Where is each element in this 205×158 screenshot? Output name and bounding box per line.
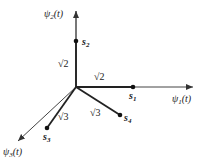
- psi2-label: ψ2(t): [44, 8, 64, 21]
- s3-point: [45, 126, 50, 131]
- s4-magnitude: √3: [90, 107, 101, 118]
- s2-point: [74, 39, 79, 44]
- psi1-label: ψ1(t): [172, 93, 192, 106]
- s4-label: s4: [123, 112, 132, 125]
- s3-magnitude: √3: [58, 111, 69, 122]
- signal-space-diagram: ψ2(t) ψ1(t) ψ3(t) s2 s1 s3 s4 √2 √2 √3 √…: [0, 0, 205, 158]
- s2-magnitude: √2: [58, 58, 69, 69]
- psi3-label: ψ3(t): [3, 146, 23, 158]
- s2-label: s2: [81, 36, 90, 49]
- s1-point: [131, 85, 136, 90]
- s4-point: [118, 113, 123, 118]
- s1-label: s1: [128, 90, 136, 103]
- s1-magnitude: √2: [94, 71, 105, 82]
- s3-label: s3: [42, 131, 51, 144]
